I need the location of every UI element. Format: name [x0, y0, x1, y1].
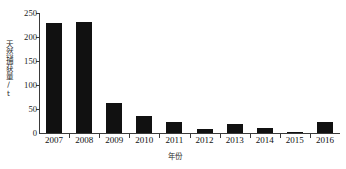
- y-tick-label: 100: [15, 81, 37, 90]
- bar: [106, 103, 122, 133]
- bar: [227, 124, 243, 133]
- x-tick-label: 2013: [220, 135, 250, 146]
- bar: [76, 22, 92, 133]
- bar-chart: 天然捕获量/t 050100150200250 2007200820092010…: [0, 0, 346, 169]
- bar-series: [39, 13, 340, 133]
- bar: [46, 23, 62, 133]
- x-axis-title: 年份: [0, 152, 346, 161]
- x-tick-label: 2016: [310, 135, 340, 146]
- x-tick-label: 2008: [69, 135, 99, 146]
- bar: [166, 122, 182, 133]
- bar: [197, 129, 213, 133]
- y-axis-tick-labels: 050100150200250: [12, 0, 37, 169]
- x-tick-label: 2014: [250, 135, 280, 146]
- y-tick-label: 0: [15, 129, 37, 138]
- x-tick-label: 2009: [99, 135, 129, 146]
- y-axis-title: 天然捕获量/t: [0, 24, 12, 114]
- y-tick-label: 150: [15, 57, 37, 66]
- bar: [287, 132, 303, 133]
- plot-area: [39, 13, 340, 133]
- bar: [136, 116, 152, 133]
- x-axis-tick-labels: 2007200820092010201120122013201420152016: [39, 135, 340, 147]
- bar: [317, 122, 333, 133]
- x-tick-label: 2007: [39, 135, 69, 146]
- bar: [257, 128, 273, 133]
- x-tick-label: 2011: [159, 135, 189, 146]
- y-tick-label: 250: [15, 9, 37, 18]
- y-tick-label: 200: [15, 33, 37, 42]
- y-tick-label: 50: [15, 105, 37, 114]
- x-tick-label: 2010: [129, 135, 159, 146]
- x-tick-label: 2012: [190, 135, 220, 146]
- x-tick-label: 2015: [280, 135, 310, 146]
